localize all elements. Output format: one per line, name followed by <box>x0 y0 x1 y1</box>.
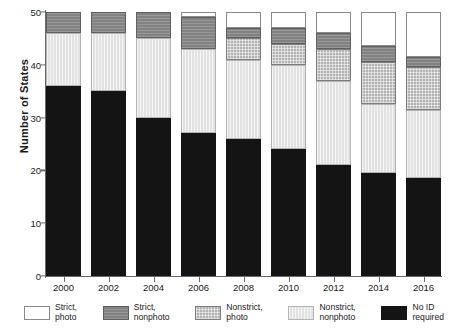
y-tick-label: 20 <box>30 165 41 176</box>
x-tick-label: 2006 <box>181 282 216 293</box>
bar-segment-nonstrict-nonphoto[interactable] <box>271 65 306 149</box>
stacked-bar-series <box>46 12 441 276</box>
x-tick-label: 2002 <box>91 282 126 293</box>
bar-column[interactable] <box>361 12 396 276</box>
x-tick-label: 2012 <box>316 282 351 293</box>
bar-segment-strict-photo[interactable] <box>361 12 396 46</box>
bar-segment-no-id[interactable] <box>406 178 441 276</box>
bar-segment-strict-photo[interactable] <box>316 12 351 33</box>
plot-area: 01020304050 <box>46 12 441 276</box>
bar-column[interactable] <box>46 12 81 276</box>
bar-column[interactable] <box>271 12 306 276</box>
bar-segment-strict-nonphoto[interactable] <box>46 12 81 33</box>
bar-segment-strict-nonphoto[interactable] <box>91 12 126 33</box>
bar-segment-nonstrict-photo[interactable] <box>226 38 261 59</box>
legend-item[interactable]: Strict, photo <box>24 303 77 322</box>
y-tick-label: 50 <box>30 7 41 18</box>
bar-segment-no-id[interactable] <box>46 86 81 276</box>
y-axis-title: Number of States <box>18 36 30 176</box>
legend-label: Strict, nonphoto <box>134 303 170 322</box>
x-tick-label: 2014 <box>361 282 396 293</box>
legend-item[interactable]: Strict, nonphoto <box>103 303 170 322</box>
bar-segment-nonstrict-photo[interactable] <box>361 62 396 104</box>
bar-segment-no-id[interactable] <box>361 173 396 276</box>
bar-segment-no-id[interactable] <box>181 133 216 276</box>
x-tick-label: 2004 <box>136 282 171 293</box>
bar-segment-nonstrict-nonphoto[interactable] <box>316 81 351 165</box>
bar-segment-nonstrict-nonphoto[interactable] <box>46 33 81 86</box>
bar-segment-nonstrict-nonphoto[interactable] <box>361 104 396 173</box>
bar-segment-strict-nonphoto[interactable] <box>406 57 441 68</box>
x-tick-label: 2010 <box>271 282 306 293</box>
bar-segment-strict-nonphoto[interactable] <box>361 46 396 62</box>
x-tick-label: 2008 <box>226 282 261 293</box>
bar-segment-nonstrict-photo[interactable] <box>316 49 351 81</box>
legend-label: Nonstrict, nonphoto <box>319 303 355 322</box>
bar-segment-nonstrict-nonphoto[interactable] <box>226 60 261 139</box>
bar-segment-no-id[interactable] <box>226 139 261 276</box>
bar-segment-no-id[interactable] <box>136 118 171 276</box>
bar-segment-no-id[interactable] <box>271 149 306 276</box>
y-tick-label: 10 <box>30 218 41 229</box>
chart-figure: Number of States 01020304050 20002002200… <box>0 0 453 332</box>
legend-label: Strict, photo <box>55 303 77 322</box>
bar-column[interactable] <box>406 12 441 276</box>
x-tick-label: 2016 <box>406 282 441 293</box>
legend-label: No ID required <box>412 303 444 322</box>
legend-swatch-icon <box>288 306 314 320</box>
chart-legend: Strict, photoStrict, nonphotoNonstrict, … <box>24 303 444 322</box>
bar-segment-nonstrict-nonphoto[interactable] <box>181 49 216 133</box>
bar-column[interactable] <box>91 12 126 276</box>
legend-item[interactable]: Nonstrict, nonphoto <box>288 303 355 322</box>
bar-segment-strict-photo[interactable] <box>226 12 261 28</box>
bar-segment-strict-nonphoto[interactable] <box>271 28 306 44</box>
bar-segment-nonstrict-photo[interactable] <box>406 67 441 109</box>
bar-segment-nonstrict-nonphoto[interactable] <box>91 33 126 91</box>
legend-swatch-icon <box>24 306 50 320</box>
bar-segment-strict-nonphoto[interactable] <box>226 28 261 39</box>
bar-segment-nonstrict-nonphoto[interactable] <box>406 110 441 179</box>
legend-item[interactable]: Nonstrict, photo <box>195 303 262 322</box>
bar-segment-no-id[interactable] <box>316 165 351 276</box>
bar-segment-strict-photo[interactable] <box>271 12 306 28</box>
bar-column[interactable] <box>181 12 216 276</box>
bar-segment-strict-nonphoto[interactable] <box>181 17 216 49</box>
y-tick-label: 40 <box>30 59 41 70</box>
legend-swatch-icon <box>381 306 407 320</box>
bar-segment-strict-nonphoto[interactable] <box>316 33 351 49</box>
bar-segment-strict-photo[interactable] <box>406 12 441 57</box>
x-axis-labels: 200020022004200620082010201220142016 <box>46 282 441 293</box>
legend-item[interactable]: No ID required <box>381 303 444 322</box>
bar-segment-strict-nonphoto[interactable] <box>136 12 171 38</box>
bar-column[interactable] <box>136 12 171 276</box>
bar-column[interactable] <box>316 12 351 276</box>
bar-segment-nonstrict-nonphoto[interactable] <box>136 38 171 117</box>
bar-segment-nonstrict-photo[interactable] <box>271 44 306 65</box>
legend-swatch-icon <box>103 306 129 320</box>
legend-swatch-icon <box>195 306 221 320</box>
legend-label: Nonstrict, photo <box>226 303 262 322</box>
y-tick-label: 30 <box>30 112 41 123</box>
bar-segment-no-id[interactable] <box>91 91 126 276</box>
x-tick-label: 2000 <box>46 282 81 293</box>
bar-column[interactable] <box>226 12 261 276</box>
